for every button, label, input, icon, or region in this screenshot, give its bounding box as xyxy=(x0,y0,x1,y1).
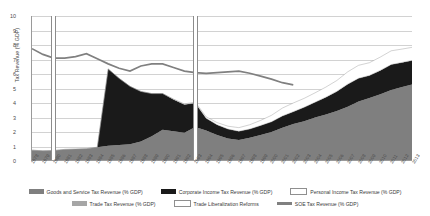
reform-marker-1993 xyxy=(193,16,198,160)
legend-swatch-icon xyxy=(290,188,307,195)
legend-label: Personal Income Tax Revenue (% GDP) xyxy=(310,189,401,195)
line-series-0 xyxy=(32,49,293,85)
y-tick-10: 10 xyxy=(0,13,16,19)
legend-swatch-icon xyxy=(161,189,176,194)
x-axis-tick-labels: 1978197919801981198219831984198519861987… xyxy=(31,161,412,187)
legend-item[interactable]: Personal Income Tax Revenue (% GDP) xyxy=(290,188,401,195)
legend-item[interactable]: Corporate Income Tax Revenue (% GDP) xyxy=(161,189,273,195)
series-layer xyxy=(32,16,412,161)
legend-swatch-icon xyxy=(29,189,44,194)
plot-area xyxy=(31,16,412,161)
y-tick-0: 0 xyxy=(0,158,16,164)
chart-legend: Goods and Service Tax Revenue (% GDP)Cor… xyxy=(0,186,430,214)
legend-label: Trade Liberalization Reforms xyxy=(194,201,259,207)
legend-swatch-icon xyxy=(72,201,87,206)
legend-row-0: Goods and Service Tax Revenue (% GDP)Cor… xyxy=(0,186,430,197)
y-tick-8: 8 xyxy=(0,42,16,48)
legend-item[interactable]: Trade Liberalization Reforms xyxy=(174,200,259,207)
legend-row-1: Trade Tax Revenue (% GDP)Trade Liberaliz… xyxy=(0,198,430,209)
y-tick-2: 2 xyxy=(0,129,16,135)
legend-label: Corporate Income Tax Revenue (% GDP) xyxy=(179,189,273,195)
y-tick-5: 5 xyxy=(0,86,16,92)
legend-swatch-icon xyxy=(277,202,292,205)
legend-label: Goods and Service Tax Revenue (% GDP) xyxy=(47,189,143,195)
y-tick-4: 4 xyxy=(0,100,16,106)
tax-revenue-area-chart: Tax Revenue (% GDP) 012345678910 1978197… xyxy=(0,0,430,216)
x-tick-2013: 2013 xyxy=(411,153,421,164)
y-tick-9: 9 xyxy=(0,28,16,34)
legend-label: SOE Tax Revenue (% GDP) xyxy=(295,201,359,207)
legend-item[interactable]: Trade Tax Revenue (% GDP) xyxy=(72,201,156,207)
y-tick-7: 7 xyxy=(0,57,16,63)
legend-label: Trade Tax Revenue (% GDP) xyxy=(90,201,156,207)
reform-marker-1980 xyxy=(51,16,56,160)
legend-item[interactable]: SOE Tax Revenue (% GDP) xyxy=(277,201,359,207)
legend-swatch-icon xyxy=(174,200,191,207)
y-tick-1: 1 xyxy=(0,144,16,150)
y-tick-6: 6 xyxy=(0,71,16,77)
y-tick-3: 3 xyxy=(0,115,16,121)
legend-item[interactable]: Goods and Service Tax Revenue (% GDP) xyxy=(29,189,143,195)
